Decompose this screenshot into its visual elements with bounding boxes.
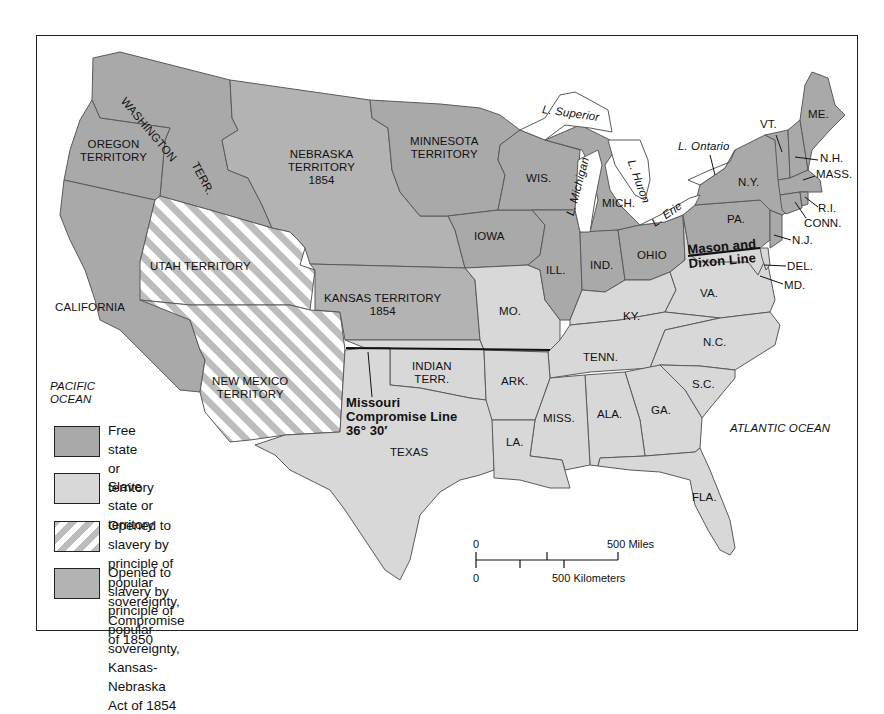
scale-km-zero: 0 xyxy=(473,572,479,584)
region-new-jersey xyxy=(770,210,782,248)
label-nebraska: NEBRASKA TERRITORY 1854 xyxy=(288,148,355,187)
legend-label: Opened to slavery by principle of popula… xyxy=(108,563,180,714)
label-atlantic-ocean: ATLANTIC OCEAN xyxy=(730,422,830,435)
label-pacific-ocean: PACIFIC OCEAN xyxy=(50,380,95,406)
label-tenn: TENN. xyxy=(583,351,618,364)
label-california: CALIFORNIA xyxy=(55,301,125,314)
label-md: MD. xyxy=(784,279,805,292)
label-utah: UTAH TERRITORY xyxy=(150,260,251,273)
label-nh: N.H. xyxy=(820,152,843,165)
label-ark: ARK. xyxy=(501,375,528,388)
scale-bar xyxy=(476,552,618,568)
label-ny: N.Y. xyxy=(738,176,759,189)
label-va: VA. xyxy=(700,287,718,300)
swatch-kansas-nebraska-1854 xyxy=(54,568,100,599)
label-mason-dixon-line: Mason and Dixon Line xyxy=(687,237,758,271)
label-la: LA. xyxy=(506,436,524,449)
label-vt: VT. xyxy=(760,118,777,131)
label-ky: KY. xyxy=(623,310,640,323)
label-oregon: OREGON TERRITORY xyxy=(80,138,147,164)
label-del: DEL. xyxy=(787,260,813,273)
label-minnesota: MINNESOTA TERRITORY xyxy=(410,135,478,161)
label-ill: ILL. xyxy=(546,264,566,277)
label-ri: R.I. xyxy=(818,202,836,215)
label-kansas: KANSAS TERRITORY 1854 xyxy=(324,292,441,318)
label-texas: TEXAS xyxy=(390,446,428,459)
label-ala: ALA. xyxy=(597,408,622,421)
region-connecticut xyxy=(780,192,802,214)
label-missouri-compromise-line: Missouri Compromise Line 36° 30′ xyxy=(346,396,457,438)
label-iowa: IOWA xyxy=(474,230,505,243)
scale-km-label: 500 Kilometers xyxy=(552,572,625,584)
swatch-compromise-1850 xyxy=(54,521,100,552)
label-mo: MO. xyxy=(499,305,521,318)
label-nc: N.C. xyxy=(703,336,726,349)
label-pa: PA. xyxy=(727,213,745,226)
label-ind: IND. xyxy=(590,259,613,272)
label-indian-terr: INDIAN TERR. xyxy=(412,360,452,386)
label-mass: MASS. xyxy=(816,168,852,181)
label-me: ME. xyxy=(808,108,829,121)
label-mich: MICH. xyxy=(602,197,635,210)
swatch-slave xyxy=(54,473,100,504)
label-ga: GA. xyxy=(651,404,671,417)
swatch-free xyxy=(54,426,100,457)
label-fla: FLA. xyxy=(692,491,717,504)
label-nj: N.J. xyxy=(792,234,813,247)
label-conn: CONN. xyxy=(804,217,842,230)
scale-miles-zero: 0 xyxy=(473,538,479,550)
label-sc: S.C. xyxy=(692,378,715,391)
scale-miles-label: 500 Miles xyxy=(607,538,654,550)
legend-item-kansas-nebraska-1854: Opened to slavery by principle of popula… xyxy=(54,568,180,714)
label-ohio: OHIO xyxy=(637,249,667,262)
label-miss: MISS. xyxy=(543,412,575,425)
label-new-mexico: NEW MEXICO TERRITORY xyxy=(212,375,288,401)
label-lake-ontario: L. Ontario xyxy=(678,140,730,153)
label-wis: WIS. xyxy=(526,172,551,185)
